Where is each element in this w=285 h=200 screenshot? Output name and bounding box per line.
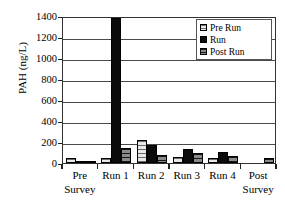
bar [66,158,76,163]
legend-item: Run [200,34,269,45]
y-axis-title: PAH (ng/L) [16,13,28,123]
legend-label: Pre Run [210,23,241,33]
bar-group [63,18,99,163]
x-axis-label: PostSurvey [229,169,285,196]
bar [183,149,193,163]
bar-group [99,18,135,163]
legend-item: Post Run [200,46,269,57]
chart-legend: Pre RunRunPost Run [196,19,272,60]
legend-label: Post Run [210,47,245,57]
x-label-line1: Pre [72,169,87,181]
y-tick-label: 200 [23,138,57,148]
bar [101,158,111,163]
x-label-line2: Survey [51,183,109,197]
bar [264,158,274,163]
y-tick-label: 400 [23,117,57,127]
bar [157,155,167,163]
y-tick-label: 0 [23,159,57,169]
bar [86,161,96,163]
y-tick-label: 600 [23,96,57,106]
bar [121,148,131,163]
legend-item: Pre Run [200,22,269,33]
x-label-line2: Survey [229,183,285,197]
bar [173,157,183,163]
legend-label: Run [210,35,226,45]
legend-swatch-icon [200,24,207,31]
bar-group [134,18,170,163]
y-tick-label: 1400 [23,12,57,22]
pah-bar-chart: PAH (ng/L) 0200400600800100012001400 Pre… [0,0,285,200]
bar [137,140,147,163]
bar [147,145,157,163]
bar [111,18,121,163]
bar [208,158,218,163]
bar [76,161,86,163]
y-tick-label: 800 [23,75,57,85]
bar [193,153,203,164]
y-tick-label: 1200 [23,33,57,43]
legend-swatch-icon [200,48,207,55]
bar [218,152,228,163]
legend-swatch-icon [200,36,207,43]
bar [228,156,238,163]
y-tick-label: 1000 [23,54,57,64]
x-label-line1: Post [249,169,268,181]
